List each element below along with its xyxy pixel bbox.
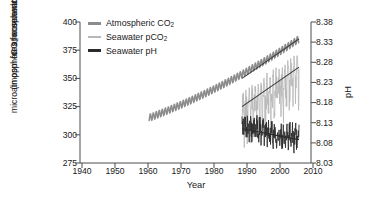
y-axis-right-ticks <box>311 22 316 163</box>
y-axis-left-ticks <box>75 22 80 163</box>
plot-canvas <box>0 0 376 200</box>
chart-figure: CO2 concentration (in ppm for atmospheri… <box>0 0 376 200</box>
x-axis-ticks <box>82 163 313 168</box>
